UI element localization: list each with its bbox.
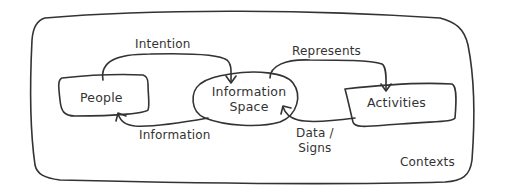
- information-space-label: Information Space: [205, 84, 293, 114]
- edge-label-intention: Intention: [135, 37, 191, 51]
- data-label: Data /: [296, 126, 334, 141]
- contexts-label: Contexts: [400, 155, 455, 169]
- edge-label-data-signs: Data / Signs: [296, 126, 334, 156]
- signs-label: Signs: [296, 141, 334, 156]
- information-arrow: [118, 114, 208, 126]
- people-label: People: [80, 90, 123, 105]
- activities-label: Activities: [367, 95, 426, 110]
- information-label: Information: [205, 84, 293, 99]
- data-signs-arrow: [283, 107, 355, 121]
- edge-label-information: Information: [139, 128, 211, 142]
- edge-label-represents: Represents: [292, 44, 361, 58]
- space-label: Space: [205, 99, 293, 114]
